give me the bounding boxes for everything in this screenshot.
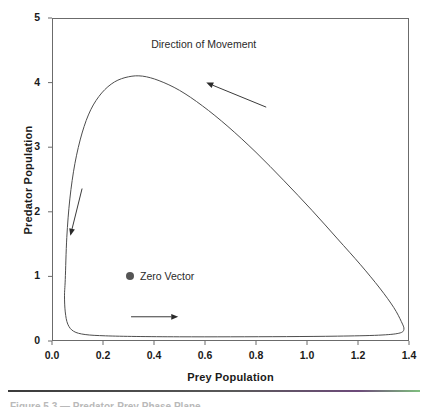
figure-caption-sliver: Figure 5.3 — Predator-Prey Phase Plane	[10, 397, 310, 407]
x-tick-label: 1.4	[389, 350, 428, 361]
x-axis-title: Prey Population	[52, 371, 409, 383]
x-tick-label: 1.0	[287, 350, 327, 361]
y-tick-label: 5	[10, 12, 40, 23]
y-axis-title: Predator Population	[22, 80, 34, 280]
zero-vector-label: Zero Vector	[140, 270, 194, 282]
figure-root: 012345 0.00.20.40.60.81.01.21.4 Predator…	[0, 0, 428, 408]
x-tick-label: 0.2	[83, 350, 123, 361]
x-tick-label: 0.4	[134, 350, 174, 361]
direction-of-movement-label: Direction of Movement	[151, 38, 256, 50]
x-tick-label: 1.2	[338, 350, 378, 361]
zero-vector-dot-icon	[126, 272, 134, 280]
page-divider	[8, 390, 420, 392]
x-tick-label: 0.0	[32, 350, 72, 361]
plot-area-frame	[52, 18, 409, 341]
x-tick-label: 0.8	[236, 350, 276, 361]
zero-vector-legend: Zero Vector	[126, 270, 194, 282]
x-tick-label: 0.6	[185, 350, 225, 361]
y-tick-label: 0	[10, 335, 40, 346]
